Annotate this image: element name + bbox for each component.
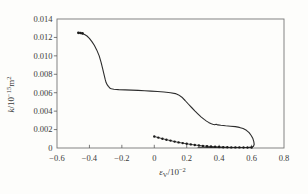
loading-branch-dotted-curve-marker-dot xyxy=(165,139,167,141)
loading-branch-dotted-curve-marker-dot xyxy=(182,142,184,144)
loading-branch-dotted-curve-marker-dot xyxy=(210,145,212,147)
permeability-main-curve-line xyxy=(78,33,254,148)
loading-branch-dotted-curve-marker-dot xyxy=(238,146,240,148)
loading-branch-dotted-curve-marker-dot xyxy=(226,146,228,148)
axis-label-part: −2 xyxy=(179,166,186,173)
loading-branch-dotted-curve-marker-dot xyxy=(230,146,232,148)
loading-branch-dotted-curve-marker-dot xyxy=(250,146,252,148)
loading-branch-dotted-curve-marker-dot xyxy=(177,141,179,143)
loading-branch-dotted-curve-marker-dot xyxy=(218,146,220,148)
y-tick-label: 0.008 xyxy=(33,69,52,79)
plot-frame xyxy=(57,19,284,148)
axis-label-part: /10 xyxy=(6,97,16,109)
axis-label-part: V xyxy=(163,171,168,178)
y-tick-label: 0.014 xyxy=(33,14,53,24)
x-tick-label: −0.4 xyxy=(82,153,98,163)
y-axis-ticks xyxy=(54,37,57,129)
loading-branch-dotted-curve-marker-dot xyxy=(246,146,248,148)
x-tick-label: 0.6 xyxy=(246,153,257,163)
loading-branch-dotted-curve-marker-dot xyxy=(186,143,188,145)
loading-branch-dotted-curve-marker-dot xyxy=(214,146,216,148)
loading-branch-dotted-curve-marker-dot xyxy=(202,145,204,147)
loading-branch-dotted-curve-marker-dot xyxy=(190,143,192,145)
loading-branch-dotted-curve-marker-dot xyxy=(173,140,175,142)
y-tick-label: 0.002 xyxy=(33,124,52,134)
x-tick-label: −0.2 xyxy=(114,153,129,163)
x-tick-label: 0.4 xyxy=(214,153,225,163)
loading-branch-dotted-curve-marker-dot xyxy=(234,146,236,148)
y-tick-label: 0.006 xyxy=(33,88,52,98)
loading-branch-dotted-curve-marker-dot xyxy=(169,139,171,141)
x-tick-label: 0.8 xyxy=(279,153,290,163)
loading-branch-dotted-curve-marker-dot xyxy=(206,145,208,147)
x-tick-label: 0.2 xyxy=(181,153,192,163)
y-tick-label: 0.012 xyxy=(33,32,52,42)
x-tick-label: 0 xyxy=(152,153,156,163)
loading-branch-dotted-curve-marker-dot xyxy=(198,144,200,146)
chart-figure: −0.6−0.4−0.200.20.40.60.8 00.0020.0040.0… xyxy=(0,0,308,194)
loading-branch-dotted-curve-marker-dot xyxy=(242,146,244,148)
x-axis-tick-labels: −0.6−0.4−0.200.20.40.60.8 xyxy=(49,153,289,163)
y-tick-label: 0.004 xyxy=(33,106,53,116)
y-tick-label: 0.010 xyxy=(33,51,52,61)
y-tick-label: 0 xyxy=(48,143,52,153)
loading-branch-dotted-curve-marker-dot xyxy=(153,135,155,137)
y-axis-label: k/10−15m2 xyxy=(6,57,17,133)
loading-branch-dotted-curve-marker-dot xyxy=(161,138,163,140)
y-axis-tick-labels: 00.0020.0040.0060.0080.0100.0120.014 xyxy=(33,14,53,153)
x-axis-label: εV/10−2 xyxy=(130,167,215,178)
axis-label-part: /10 xyxy=(167,167,179,177)
axis-label-part: k xyxy=(6,108,16,112)
axis-label-part: 2 xyxy=(4,77,11,80)
x-tick-label: −0.6 xyxy=(49,153,64,163)
plot-svg: −0.6−0.4−0.200.20.40.60.8 00.0020.0040.0… xyxy=(0,0,308,194)
axis-label-part: −15 xyxy=(4,87,11,97)
loading-branch-dotted-curve-marker-dot xyxy=(157,136,159,138)
loading-branch-dotted-curve-marker-dot xyxy=(222,146,224,148)
series-group xyxy=(77,31,254,148)
curve-start-markers-marker-dot xyxy=(81,32,84,35)
loading-branch-dotted-curve-marker-dot xyxy=(194,144,196,146)
